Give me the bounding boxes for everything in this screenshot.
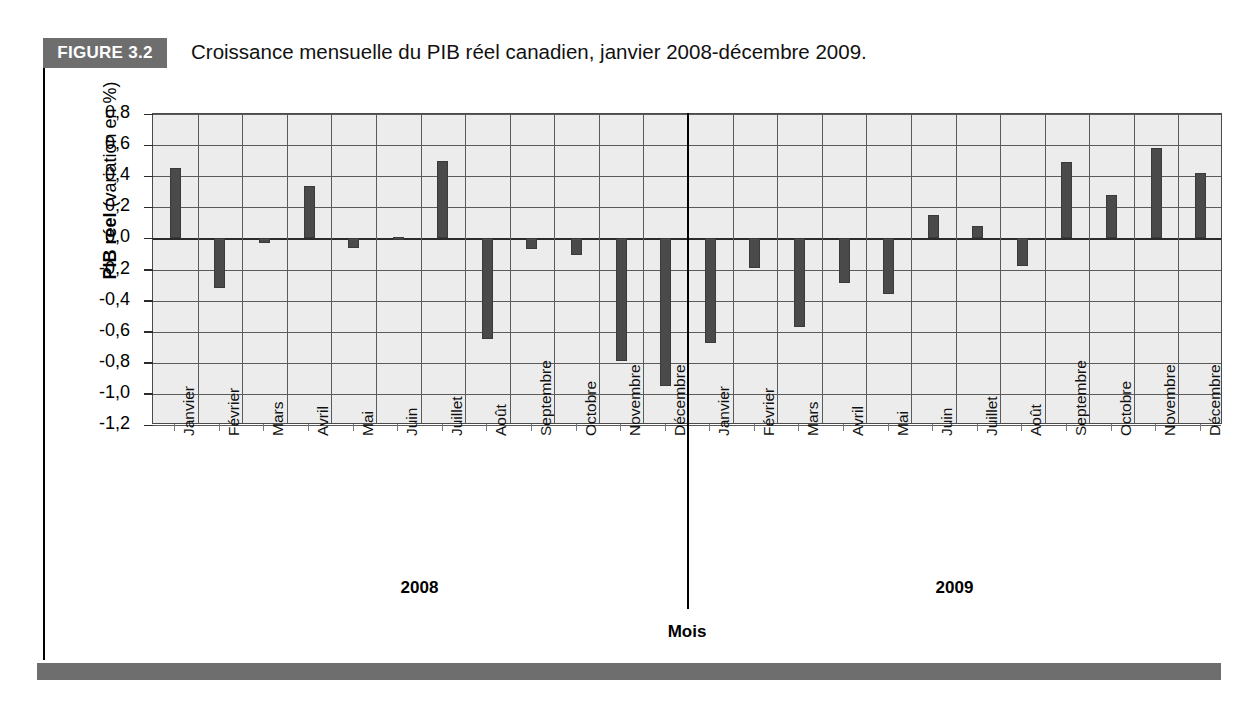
year-group-divider xyxy=(687,113,689,609)
bar xyxy=(1151,148,1162,238)
x-axis-tick xyxy=(576,424,577,431)
x-axis-group-label-2009: 2009 xyxy=(895,578,1015,598)
y-axis-tick-label: 0,8 xyxy=(70,102,130,123)
y-axis-tick xyxy=(144,362,153,364)
x-axis-tick xyxy=(486,424,487,431)
x-axis-tick xyxy=(888,424,889,431)
x-axis-tick xyxy=(798,424,799,431)
bar xyxy=(214,238,225,288)
gridline-x xyxy=(1134,114,1135,423)
x-axis-tick xyxy=(353,424,354,431)
x-axis-month-label: Août xyxy=(492,404,510,436)
bar xyxy=(749,238,760,268)
x-axis-month-label: Mai xyxy=(359,411,377,436)
y-axis-tick xyxy=(144,145,153,147)
bar xyxy=(972,226,983,238)
left-vertical-rule xyxy=(43,68,45,660)
x-axis-month-label: Juin xyxy=(403,408,421,436)
x-axis-month-label: Février xyxy=(225,388,243,436)
gridline-x xyxy=(465,114,466,423)
x-axis-month-label: Septembre xyxy=(1072,360,1090,436)
y-axis-tick-label: -0,4 xyxy=(70,289,130,310)
bar xyxy=(437,161,448,239)
gridline-x xyxy=(198,114,199,423)
x-axis-tick xyxy=(308,424,309,431)
bar xyxy=(883,238,894,294)
x-axis-month-label: Mars xyxy=(269,402,287,436)
bar xyxy=(304,186,315,239)
y-axis-tick-label: 0,0 xyxy=(70,226,130,247)
x-axis-tick xyxy=(932,424,933,431)
figure-container: FIGURE 3.2 Croissance mensuelle du PIB r… xyxy=(0,0,1253,707)
x-axis-month-label: Décembre xyxy=(671,365,689,437)
gridline-x xyxy=(1000,114,1001,423)
bar xyxy=(705,238,716,342)
x-axis-tick xyxy=(1066,424,1067,431)
bar xyxy=(794,238,805,327)
x-axis-month-label: Avril xyxy=(849,406,867,436)
x-axis-month-label: Janvier xyxy=(180,386,198,436)
gridline-x xyxy=(599,114,600,423)
x-axis-month-label: Octobre xyxy=(1117,381,1135,436)
bar xyxy=(928,215,939,238)
y-axis-tick-label: 0,2 xyxy=(70,195,130,216)
x-axis-tick xyxy=(263,424,264,431)
gridline-x xyxy=(866,114,867,423)
x-axis-tick xyxy=(843,424,844,431)
gridline-x xyxy=(376,114,377,423)
x-axis-month-label: Décembre xyxy=(1206,365,1224,437)
bar xyxy=(1106,195,1117,239)
bar xyxy=(571,238,582,255)
bar xyxy=(259,238,270,243)
bar xyxy=(1017,238,1028,266)
y-axis-tick xyxy=(144,331,153,333)
x-axis-tick xyxy=(754,424,755,431)
bar xyxy=(616,238,627,361)
x-axis-tick xyxy=(665,424,666,431)
x-axis-group-label-2008: 2008 xyxy=(360,578,480,598)
figure-title: Croissance mensuelle du PIB réel canadie… xyxy=(191,40,867,64)
bar xyxy=(660,238,671,386)
x-axis-month-label: Avril xyxy=(314,406,332,436)
x-axis-month-label: Juillet xyxy=(448,396,466,436)
y-axis-tick-label: 0,6 xyxy=(70,133,130,154)
bar xyxy=(839,238,850,283)
x-axis-title: Mois xyxy=(627,622,747,642)
x-axis-month-label: Janvier xyxy=(715,386,733,436)
gridline-x xyxy=(777,114,778,423)
x-axis-month-label: Mai xyxy=(894,411,912,436)
y-axis-tick xyxy=(144,238,153,240)
bar xyxy=(170,168,181,238)
x-axis-tick xyxy=(174,424,175,431)
gridline-x xyxy=(421,114,422,423)
gridline-x xyxy=(1045,114,1046,423)
gridline-x xyxy=(331,114,332,423)
x-axis-month-label: Août xyxy=(1027,404,1045,436)
bar xyxy=(482,238,493,339)
x-axis-month-label: Juillet xyxy=(983,396,1001,436)
x-axis-tick xyxy=(397,424,398,431)
y-axis-tick-label: -1,0 xyxy=(70,382,130,403)
y-axis-tick xyxy=(144,269,153,271)
bar xyxy=(526,238,537,249)
gridline-x xyxy=(733,114,734,423)
x-axis-month-label: Novembre xyxy=(626,365,644,437)
y-axis-tick-label: 0,4 xyxy=(70,164,130,185)
y-axis-tick xyxy=(144,207,153,209)
y-axis-tick xyxy=(144,300,153,302)
x-axis-tick xyxy=(442,424,443,431)
gridline-x xyxy=(911,114,912,423)
bar xyxy=(348,238,359,247)
x-axis-tick xyxy=(1155,424,1156,431)
x-axis-tick xyxy=(620,424,621,431)
y-axis-tick xyxy=(144,176,153,178)
x-axis-tick xyxy=(709,424,710,431)
x-axis-tick xyxy=(1200,424,1201,431)
y-axis-tick xyxy=(144,393,153,395)
x-axis-month-label: Juin xyxy=(938,408,956,436)
gridline-x xyxy=(287,114,288,423)
y-axis-tick-label: -0,2 xyxy=(70,258,130,279)
x-axis-tick xyxy=(219,424,220,431)
bar xyxy=(393,237,404,240)
x-axis-month-label: Octobre xyxy=(582,381,600,436)
